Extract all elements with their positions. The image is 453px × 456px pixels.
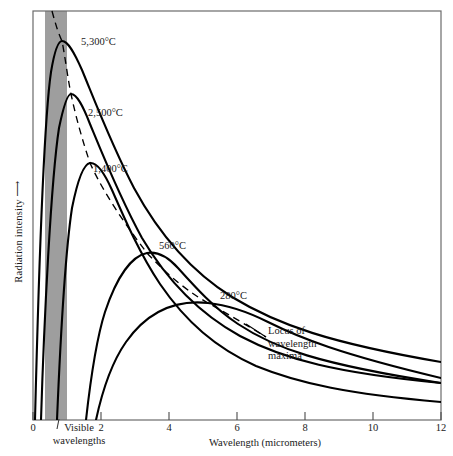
x-axis-title: Wavelength (micrometers) xyxy=(150,437,380,448)
locus-note-line-3: maxima xyxy=(268,350,316,363)
curve-2500c xyxy=(41,94,441,420)
y-axis-title: Radiation intensity ⟶ xyxy=(12,142,25,322)
y-axis-arrow-icon: ⟶ xyxy=(11,180,24,196)
y-axis-title-wrapper: Radiation intensity ⟶ xyxy=(0,130,30,340)
visible-wavelength-band xyxy=(45,11,67,420)
y-axis-title-text: Radiation intensity xyxy=(13,199,24,282)
curve-label-2500c: 2,500°C xyxy=(88,107,123,118)
locus-note-line-1: Locus of xyxy=(268,325,316,338)
curve-560c xyxy=(86,253,441,420)
locus-annotation: Locus of wavelength maxima xyxy=(268,325,316,363)
curve-label-5300c: 5,300°C xyxy=(81,36,116,47)
visible-caption-line-1: Visible xyxy=(38,422,120,435)
plot-canvas xyxy=(0,0,453,456)
x-tick-label-10: 10 xyxy=(361,422,385,433)
visible-caption-line-2: wavelengths xyxy=(38,435,120,448)
blackbody-radiation-chart: Radiation intensity ⟶ Wavelength (microm… xyxy=(0,0,453,456)
x-tick-label-12: 12 xyxy=(429,422,453,433)
locus-note-line-2: wavelength xyxy=(268,338,316,351)
x-tick-label-6: 6 xyxy=(225,422,249,433)
curve-label-1400c: 1,400°C xyxy=(93,163,128,174)
x-tick-label-8: 8 xyxy=(293,422,317,433)
locus-of-wavelength-maxima-curve xyxy=(52,11,266,337)
curve-label-560c: 560°C xyxy=(159,240,186,251)
x-axis-ticks xyxy=(33,412,441,420)
x-tick-label-4: 4 xyxy=(157,422,181,433)
visible-wavelengths-caption: Visible wavelengths xyxy=(38,422,120,447)
curve-1400c xyxy=(57,163,441,420)
curve-label-280c: 280°C xyxy=(220,290,247,301)
